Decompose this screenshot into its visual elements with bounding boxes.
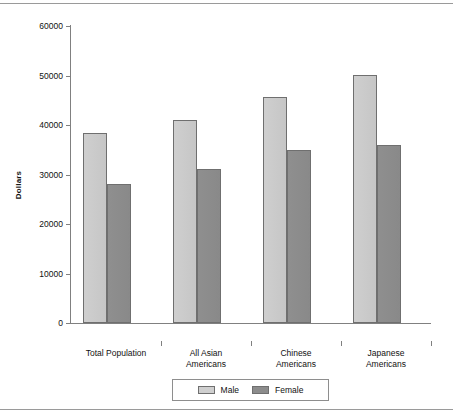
x-axis-group-separator [251, 341, 252, 346]
bar-male [353, 75, 377, 323]
bar-female [197, 169, 221, 323]
bar-male [173, 120, 197, 323]
y-axis-tick-label: 20000 [39, 219, 71, 229]
y-axis-tick-label: 60000 [39, 21, 71, 31]
bar-male [263, 97, 287, 323]
bar-female [377, 145, 401, 323]
legend-label-male: Male [221, 385, 239, 395]
bar-female [107, 184, 131, 323]
x-axis-end-tick [431, 341, 432, 346]
x-axis-line [70, 323, 431, 324]
bar-male [83, 133, 107, 323]
y-axis-tick-label: 10000 [39, 269, 71, 279]
y-axis-title: Dollars [14, 150, 23, 220]
legend-entry-female: Female [252, 385, 303, 395]
legend-swatch-male-icon [198, 386, 215, 394]
y-axis-tick-label: 50000 [39, 71, 71, 81]
page-rule-bottom [0, 409, 453, 410]
plot-area: 0100002000030000400005000060000Total Pop… [71, 26, 431, 323]
chart-legend: Male Female [172, 379, 329, 401]
x-axis-category-label: Japanese Americans [326, 348, 446, 370]
legend-label-female: Female [275, 385, 303, 395]
bar-female [287, 150, 311, 323]
y-axis-tick-label: 30000 [39, 170, 71, 180]
x-axis-group-separator [341, 341, 342, 346]
y-axis-tick-label: 40000 [39, 120, 71, 130]
x-axis-group-separator [161, 341, 162, 346]
page-rule-top [0, 3, 453, 4]
bar-chart-figure: Dollars 0100002000030000400005000060000T… [0, 8, 453, 404]
chart-page: Dollars 0100002000030000400005000060000T… [0, 0, 453, 417]
y-axis-tick-label: 0 [58, 318, 71, 328]
legend-swatch-female-icon [252, 386, 269, 394]
legend-entry-male: Male [198, 385, 239, 395]
